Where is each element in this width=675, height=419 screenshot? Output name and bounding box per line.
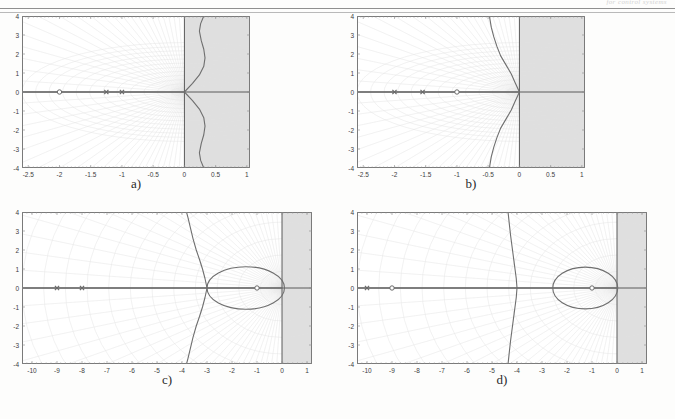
y-tick-label: 0 xyxy=(7,285,19,292)
header-rule-bottom xyxy=(0,12,675,13)
y-tick-label: -1 xyxy=(7,304,19,311)
figure-page: for control systems -2.5-2-1.5-1-0.500.5… xyxy=(0,0,675,419)
header-rule-top xyxy=(0,8,675,9)
zero-marker xyxy=(255,286,259,290)
y-tick-label: -4 xyxy=(342,165,354,172)
y-tick-label: 4 xyxy=(342,13,354,20)
y-tick-label: 1 xyxy=(342,266,354,273)
y-tick-label: -4 xyxy=(7,361,19,368)
y-tick-label: -4 xyxy=(7,165,19,172)
y-tick-label: -3 xyxy=(342,146,354,153)
zero-marker xyxy=(590,286,594,290)
y-tick-label: 1 xyxy=(7,266,19,273)
zero-marker xyxy=(455,90,459,94)
running-header: for control systems xyxy=(606,0,667,6)
y-tick-label: -3 xyxy=(7,342,19,349)
y-tick-label: 3 xyxy=(7,32,19,39)
y-tick-label: -3 xyxy=(7,146,19,153)
y-tick-label: 4 xyxy=(7,13,19,20)
y-tick-label: -3 xyxy=(342,342,354,349)
y-tick-label: 0 xyxy=(342,285,354,292)
y-tick-label: -1 xyxy=(342,304,354,311)
y-tick-label: 3 xyxy=(7,228,19,235)
panel-caption-d: d) xyxy=(357,372,647,388)
panel-caption-a: a) xyxy=(22,176,250,192)
panel-d: -10-9-8-7-6-5-4-3-2-10143210-1-2-3-4d) xyxy=(357,212,647,394)
y-tick-label: 3 xyxy=(342,228,354,235)
y-tick-label: -1 xyxy=(342,108,354,115)
y-tick-label: 3 xyxy=(342,32,354,39)
y-tick-label: -1 xyxy=(7,108,19,115)
y-tick-label: 2 xyxy=(7,51,19,58)
panel-a: -2.5-2-1.5-1-0.500.5143210-1-2-3-4a) xyxy=(22,16,250,198)
root-locus-plot-a: -2.5-2-1.5-1-0.500.5143210-1-2-3-4 xyxy=(22,16,250,168)
y-tick-label: 2 xyxy=(342,51,354,58)
y-tick-label: -2 xyxy=(7,323,19,330)
y-tick-label: 2 xyxy=(342,247,354,254)
y-tick-label: 0 xyxy=(342,89,354,96)
panel-caption-c: c) xyxy=(22,372,312,388)
panel-b: -2.5-2-1.5-1-0.500.5143210-1-2-3-4b) xyxy=(357,16,585,198)
y-tick-label: 4 xyxy=(342,209,354,216)
panel-caption-b: b) xyxy=(357,176,585,192)
y-tick-label: 0 xyxy=(7,89,19,96)
y-tick-label: 1 xyxy=(342,70,354,77)
root-locus-plot-c: -10-9-8-7-6-5-4-3-2-10143210-1-2-3-4 xyxy=(22,212,312,364)
zero-marker xyxy=(390,286,394,290)
panel-c: -10-9-8-7-6-5-4-3-2-10143210-1-2-3-4c) xyxy=(22,212,312,394)
zero-marker xyxy=(57,90,61,94)
y-tick-label: -4 xyxy=(342,361,354,368)
root-locus-plot-d: -10-9-8-7-6-5-4-3-2-10143210-1-2-3-4 xyxy=(357,212,647,364)
root-locus-plot-b: -2.5-2-1.5-1-0.500.5143210-1-2-3-4 xyxy=(357,16,585,168)
y-tick-label: 4 xyxy=(7,209,19,216)
y-tick-label: -2 xyxy=(342,323,354,330)
y-tick-label: -2 xyxy=(342,127,354,134)
y-tick-label: -2 xyxy=(7,127,19,134)
y-tick-label: 2 xyxy=(7,247,19,254)
y-tick-label: 1 xyxy=(7,70,19,77)
